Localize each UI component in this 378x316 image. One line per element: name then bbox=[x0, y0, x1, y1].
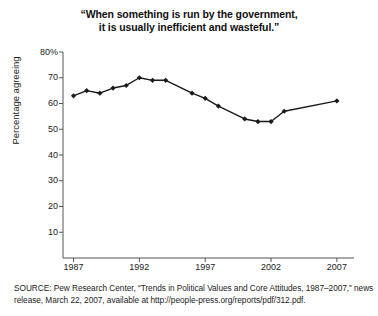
y-axis-tick-label: 80% bbox=[20, 48, 58, 57]
chart-title-line-2: it is usually inefficient and wasteful.” bbox=[0, 21, 378, 34]
x-axis-tick-label: 1987 bbox=[52, 262, 96, 272]
data-point bbox=[189, 91, 194, 96]
data-point bbox=[163, 78, 168, 83]
y-axis-tick-label: 60 bbox=[20, 99, 58, 108]
data-point bbox=[334, 98, 339, 103]
data-point bbox=[110, 85, 115, 90]
chart-title: “When something is run by the government… bbox=[0, 8, 378, 34]
line-chart-svg bbox=[63, 52, 354, 258]
y-axis-tick-label: 50 bbox=[20, 125, 58, 134]
y-axis-ticks bbox=[59, 52, 63, 232]
chart-figure: “When something is run by the government… bbox=[0, 0, 378, 316]
data-point bbox=[150, 78, 155, 83]
y-axis-tick-label: 10 bbox=[20, 228, 58, 237]
plot-area bbox=[63, 52, 354, 258]
data-point bbox=[84, 88, 89, 93]
data-point bbox=[71, 93, 76, 98]
chart-title-line-1: “When something is run by the government… bbox=[0, 8, 378, 21]
y-axis-tick-label: 30 bbox=[20, 176, 58, 185]
x-axis-tick-labels: 19871992199720022007 bbox=[63, 262, 354, 276]
data-point-markers bbox=[71, 75, 340, 124]
y-axis-tick-labels: 80%70605040302010 bbox=[14, 52, 58, 258]
x-axis-tick-label: 1992 bbox=[117, 262, 161, 272]
source-note-line-2: release, March 22, 2007, available at ht… bbox=[14, 295, 370, 307]
data-point bbox=[97, 91, 102, 96]
y-axis-tick-label: 70 bbox=[20, 73, 58, 82]
y-axis-tick-label: 40 bbox=[20, 151, 58, 160]
x-axis-tick-label: 2002 bbox=[249, 262, 293, 272]
x-axis-tick-label: 2007 bbox=[315, 262, 359, 272]
source-note-line-1: SOURCE: Pew Research Center, “Trends in … bbox=[14, 283, 370, 295]
axis-lines bbox=[63, 52, 354, 258]
data-point bbox=[255, 119, 260, 124]
data-point bbox=[242, 116, 247, 121]
x-axis-tick-label: 1997 bbox=[183, 262, 227, 272]
source-note: SOURCE: Pew Research Center, “Trends in … bbox=[14, 283, 370, 306]
y-axis-tick-label: 20 bbox=[20, 202, 58, 211]
